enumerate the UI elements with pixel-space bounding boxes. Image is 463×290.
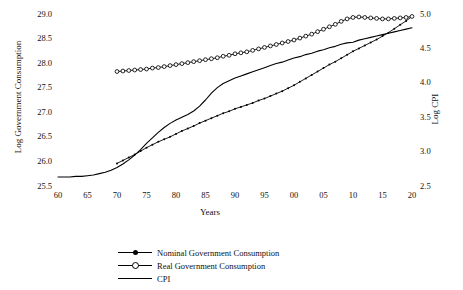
x-tick: 15: [371, 190, 395, 200]
data-point: [257, 47, 261, 51]
y-tick-left: 29.0: [22, 9, 52, 19]
data-point: [162, 65, 166, 69]
data-point: [387, 17, 391, 21]
data-point: [246, 104, 248, 106]
legend-label: CPI: [157, 274, 170, 284]
data-point: [151, 66, 155, 70]
data-point: [328, 64, 330, 66]
data-point: [198, 59, 202, 63]
data-point: [174, 63, 178, 67]
y-tick-left: 28.5: [22, 33, 52, 43]
data-point: [305, 77, 307, 79]
legend-marker-icon: [118, 273, 152, 285]
data-point: [304, 34, 308, 38]
data-point: [204, 58, 208, 62]
x-tick: 65: [76, 190, 100, 200]
data-point: [311, 74, 313, 76]
data-point: [298, 36, 302, 40]
data-point: [251, 48, 255, 52]
data-point: [280, 41, 284, 45]
data-point: [151, 144, 153, 146]
chart-legend: Nominal Government ConsumptionReal Gover…: [118, 246, 279, 285]
data-point: [116, 162, 118, 164]
data-point: [410, 15, 414, 19]
data-point: [216, 115, 218, 117]
y-tick-left: 26.0: [22, 156, 52, 166]
data-point: [376, 39, 378, 41]
data-point: [317, 71, 319, 73]
data-point: [115, 70, 119, 74]
data-point: [281, 90, 283, 92]
data-point: [369, 16, 373, 20]
data-point: [145, 67, 149, 71]
data-point: [245, 50, 249, 54]
data-point: [393, 28, 395, 30]
data-point: [392, 17, 396, 21]
y-tick-right: 3.5: [420, 112, 450, 122]
data-point: [274, 43, 278, 47]
data-point: [163, 138, 165, 140]
data-point: [258, 99, 260, 101]
data-point: [240, 106, 242, 108]
data-point: [405, 20, 407, 22]
data-point: [382, 35, 384, 37]
data-point: [370, 42, 372, 44]
data-point: [345, 17, 349, 21]
data-point: [157, 141, 159, 143]
series-cpi: [58, 28, 412, 177]
data-point: [399, 24, 401, 26]
data-point: [168, 64, 172, 68]
data-point: [351, 16, 355, 20]
data-point: [299, 81, 301, 83]
data-point: [180, 62, 184, 66]
y-tick-right: 4.5: [420, 43, 450, 53]
data-point: [293, 84, 295, 86]
data-point: [357, 15, 361, 19]
legend-item[interactable]: Real Government Consumption: [118, 259, 279, 272]
data-point: [375, 17, 379, 21]
data-point: [127, 69, 131, 73]
data-point: [228, 110, 230, 112]
data-point: [292, 38, 296, 42]
y-tick-left: 26.5: [22, 131, 52, 141]
data-point: [322, 27, 326, 31]
data-point: [234, 108, 236, 110]
x-tick: 95: [253, 190, 277, 200]
x-tick: 20: [400, 190, 424, 200]
data-point: [339, 19, 343, 23]
data-point: [128, 157, 130, 159]
data-point: [210, 117, 212, 119]
legend-item[interactable]: CPI: [118, 272, 279, 285]
x-tick: 80: [164, 190, 188, 200]
data-point: [328, 25, 332, 29]
data-point: [186, 61, 190, 65]
data-point: [334, 61, 336, 63]
y-tick-left: 27.5: [22, 82, 52, 92]
data-point: [352, 50, 354, 52]
data-point: [187, 128, 189, 130]
data-point: [333, 22, 337, 26]
data-point: [139, 68, 143, 72]
data-point: [175, 133, 177, 135]
legend-marker-icon: [118, 260, 152, 272]
data-point: [398, 16, 402, 20]
data-point: [121, 69, 125, 73]
data-point: [363, 16, 367, 20]
data-point: [275, 93, 277, 95]
y-axis-left-label: Log Government Consumption: [13, 27, 23, 167]
y-tick-right: 2.5: [420, 181, 450, 191]
data-point: [122, 159, 124, 161]
data-point: [222, 112, 224, 114]
data-point: [263, 46, 267, 50]
legend-item[interactable]: Nominal Government Consumption: [118, 246, 279, 259]
data-point: [227, 53, 231, 57]
data-point: [323, 67, 325, 69]
data-point: [156, 66, 160, 70]
x-tick: 70: [105, 190, 129, 200]
x-tick: 10: [341, 190, 365, 200]
x-tick: 05: [312, 190, 336, 200]
data-point: [358, 47, 360, 49]
series-real-government-consumption: [115, 15, 414, 74]
chart-figure: Log Government Consumption Log CPI Years…: [0, 0, 463, 290]
data-point: [316, 30, 320, 34]
